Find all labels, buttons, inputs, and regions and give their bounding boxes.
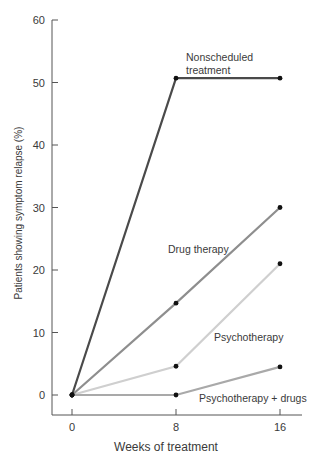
- data-point: [278, 205, 283, 210]
- series-label: treatment: [186, 64, 230, 76]
- y-tick-label: 30: [33, 202, 45, 214]
- data-point: [174, 76, 179, 81]
- series-line: [72, 367, 280, 395]
- data-point: [278, 364, 283, 369]
- series-label: Drug therapy: [168, 243, 229, 255]
- series-label: Nonscheduled: [186, 51, 253, 63]
- x-tick-label: 0: [69, 421, 75, 433]
- y-tick-label: 0: [39, 389, 45, 401]
- series-label: Psychotherapy + drugs: [199, 392, 307, 404]
- x-tick-label: 16: [274, 421, 286, 433]
- y-tick-label: 10: [33, 327, 45, 339]
- y-tick-label: 60: [33, 14, 45, 26]
- data-point: [174, 364, 179, 369]
- y-tick-label: 50: [33, 77, 45, 89]
- series-labels: NonscheduledtreatmentDrug therapyPsychot…: [168, 51, 307, 404]
- series-lines: [70, 76, 283, 398]
- x-axis-label: Weeks of treatment: [114, 440, 218, 454]
- relapse-line-chart: 01020304050600816 NonscheduledtreatmentD…: [0, 0, 316, 466]
- series-label: Psychotherapy: [214, 331, 284, 343]
- y-axis-label: Patients showing symptom relapse (%): [13, 127, 24, 300]
- x-tick-label: 8: [173, 421, 179, 433]
- data-point: [278, 261, 283, 266]
- data-point: [70, 393, 75, 398]
- data-point: [278, 76, 283, 81]
- y-tick-label: 20: [33, 264, 45, 276]
- y-tick-label: 40: [33, 139, 45, 151]
- data-point: [174, 393, 179, 398]
- data-point: [174, 301, 179, 306]
